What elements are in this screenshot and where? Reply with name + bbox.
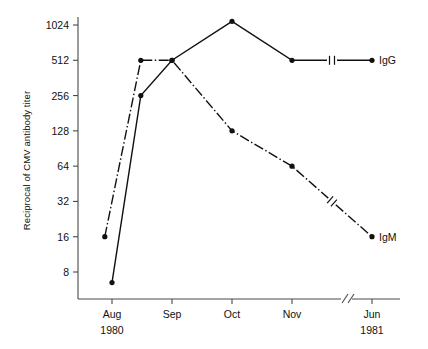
y-tick-label: 16 [57,231,69,243]
data-point-marker [138,93,143,98]
data-point-marker [289,164,294,169]
y-tick-label: 8 [63,266,69,278]
cmv-antibody-titer-chart: Reciprocal of CMV antibody titer 8163264… [0,0,428,349]
chart-canvas [0,0,428,349]
series-igg [109,19,374,285]
y-tick-label: 64 [57,160,69,172]
x-tick-label: Nov [283,308,302,320]
x-tick-label: Jun [364,308,381,320]
series-label-igm: IgM [379,231,397,243]
y-tick-label: 128 [51,125,69,137]
data-point-marker [229,128,234,133]
series-line [105,60,372,236]
data-point-marker [102,234,107,239]
data-point-marker [369,58,374,63]
x-tick-label: Oct [224,308,240,320]
series-line-break-marker [327,196,337,206]
x-tick-year-label: 1981 [360,324,383,336]
series-label-igg: IgG [379,54,396,66]
x-tick-label: Sep [163,308,182,320]
x-tick-year-label: 1980 [100,324,123,336]
y-tick-label: 512 [51,54,69,66]
data-point-marker [169,58,174,63]
series-line-break-marker [330,56,335,65]
series-igm [102,58,374,240]
data-point-marker [229,19,234,24]
data-point-marker [289,58,294,63]
y-tick-label: 1024 [46,19,69,31]
y-tick-label: 256 [51,90,69,102]
x-tick-label: Aug [103,308,122,320]
data-point-marker [109,280,114,285]
y-tick-label: 32 [57,195,69,207]
data-point-marker [369,234,374,239]
data-point-marker [138,58,143,63]
